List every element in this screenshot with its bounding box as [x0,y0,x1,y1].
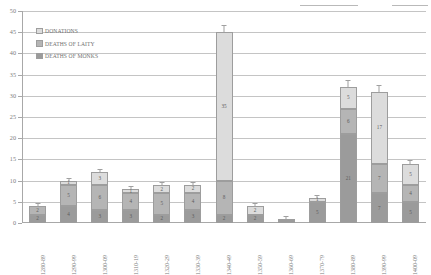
bar-segment[interactable]: 2 [153,215,170,223]
bar-segment-value: 5 [409,210,412,215]
bar-segment-value: 3 [129,214,132,219]
error-bar [99,169,100,173]
y-axis-tick-label: 45 [10,29,16,35]
bar-segment-value: 3 [98,176,101,181]
bar-segment-value: 4 [129,199,132,204]
bar-group[interactable]: 341 [122,189,139,223]
bar-segment[interactable]: 4 [60,206,77,223]
bar-segment[interactable]: 4 [184,193,201,210]
bar-group[interactable]: 51 [309,198,326,223]
bar-group[interactable] [278,219,295,223]
legend-item-donations: DONATIONS [36,28,126,34]
bar-group[interactable]: 22 [247,206,264,223]
x-axis-tick-label: 1340-49 [226,255,232,275]
bar-group[interactable]: 363 [91,172,108,223]
error-bar [224,25,225,32]
x-axis-tick-label: 1330-39 [195,255,201,275]
bar-segment[interactable]: 2 [216,215,233,223]
bar-segment-value: 2 [161,216,164,221]
y-axis-tick-label: 20 [10,135,16,141]
bar-segment[interactable]: 2 [247,215,264,223]
bar-segment-value: 5 [316,210,319,215]
bar-segment[interactable]: 35 [216,32,233,180]
y-axis-tick-label: 30 [10,93,16,99]
bar-segment[interactable]: 3 [122,210,139,223]
bar-segment[interactable]: 5 [402,202,419,223]
bar-segment[interactable]: 4 [402,185,419,202]
bar-segment-value: 5 [67,193,70,198]
bar-segment[interactable]: 8 [216,181,233,215]
bar-segment[interactable]: 2 [184,185,201,193]
x-axis-tick-label: 1380-89 [350,255,356,275]
bar-group[interactable]: 342 [184,185,201,223]
bar-group[interactable]: 451 [60,181,77,223]
bar-segment-value: 8 [223,195,226,200]
bar-segment[interactable]: 1 [122,189,139,193]
bar-segment[interactable]: 2 [153,185,170,193]
bar-group[interactable]: 2835 [216,32,233,223]
y-axis-tick [18,223,22,224]
x-axis-tick-label: 1350-59 [257,255,263,275]
error-bar [317,195,318,198]
bar-segment-value: 5 [161,201,164,206]
bar-group[interactable]: 252 [153,185,170,223]
bar-segment[interactable]: 2 [247,206,264,214]
bar-segment-value: 2 [36,216,39,221]
x-axis-tick-label: 1370-79 [319,255,325,275]
top-rule-right [392,5,428,6]
x-axis-tick-label: 1300-09 [102,255,108,275]
legend-label-donations: DONATIONS [45,28,78,34]
bar-segment[interactable]: 2 [29,215,46,223]
bar-segment[interactable]: 5 [309,202,326,223]
bar-segment-value: 2 [161,187,164,192]
bar-segment[interactable]: 3 [184,210,201,223]
bar-group[interactable]: 7717 [371,92,388,223]
bar-segment[interactable]: 17 [371,92,388,164]
bar-segment-value: 2 [192,186,195,191]
bar-group[interactable]: 545 [402,164,419,223]
bar-segment[interactable]: 1 [309,198,326,202]
bar-segment[interactable]: 5 [340,87,357,108]
bar-segment-value: 3 [192,214,195,219]
bar-segment-value: 2 [254,208,257,213]
bar-segment-value: 4 [192,199,195,204]
bar-segment[interactable]: 1 [60,181,77,185]
error-bar [410,160,411,164]
legend-swatch-deaths-of-monks [36,53,43,60]
x-axis-tick-label: 1390-99 [381,255,387,275]
bar-segment[interactable]: 3 [91,210,108,223]
y-axis-tick-label: 15 [10,156,16,162]
legend-item-deaths-of-laity: DEATHS OF LAITY [36,41,126,47]
error-bar [286,216,287,219]
bar-segment-value: 5 [347,95,350,100]
y-axis-tick-label: 0 [13,220,16,226]
bar-segment[interactable]: 6 [340,109,357,134]
bar-segment[interactable]: 7 [371,193,388,223]
error-bar [192,182,193,185]
bar-segment[interactable]: 5 [402,164,419,185]
bar-segment-value: 1 [316,197,319,202]
bar-group[interactable]: 2165 [340,87,357,223]
bar-segment[interactable]: 4 [122,193,139,210]
error-bar [130,186,131,189]
bar-group[interactable]: 22 [29,206,46,223]
bar-segment[interactable]: 5 [60,185,77,206]
x-axis-labels: 1280-891290-991300-091310-191320-291330-… [22,225,426,258]
bar-segment[interactable]: 2 [29,206,46,214]
bar-segment[interactable]: 5 [153,193,170,214]
error-bar [161,182,162,185]
bar-segment-value: 17 [377,125,382,130]
bar-segment[interactable]: 6 [91,185,108,210]
x-axis-tick-label: 1310-19 [133,255,139,275]
bar-segment-value: 6 [98,195,101,200]
bar-segment[interactable]: 3 [91,172,108,185]
y-axis-tick-label: 50 [10,8,16,14]
bar-segment-value: 1 [67,180,70,185]
x-axis-tick-label: 1320-29 [164,255,170,275]
y-axis-tick-label: 10 [10,177,16,183]
bar-segment[interactable]: 21 [340,134,357,223]
bar-segment[interactable] [278,219,295,223]
bar-segment[interactable]: 7 [371,164,388,194]
legend-label-deaths-of-monks: DEATHS OF MONKS [45,53,98,59]
